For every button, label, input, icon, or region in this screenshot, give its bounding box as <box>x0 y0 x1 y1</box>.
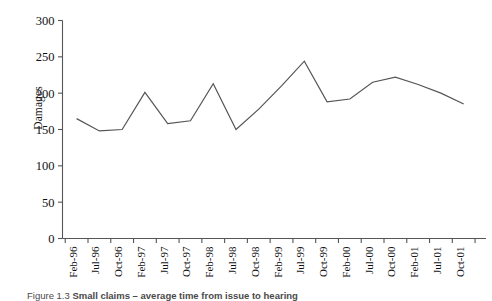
y-axis-group: 050100150200250300 <box>36 14 63 246</box>
x-tick-label: Oct-00 <box>385 246 397 277</box>
x-tick-label: Feb-99 <box>272 246 284 278</box>
y-tick-label: 250 <box>36 50 55 64</box>
x-tick-label: Jul-96 <box>89 246 101 274</box>
y-tick-label: 200 <box>36 87 55 101</box>
x-tick-label: Jul-00 <box>363 246 375 274</box>
x-axis-labels: Feb-96Jul-96Oct-96Feb-97Jul-97Oct-97Feb-… <box>67 246 466 278</box>
x-tick-label: Feb-98 <box>203 246 215 278</box>
y-tick-label: 50 <box>42 196 55 210</box>
x-tick-label: Jul-97 <box>158 246 170 274</box>
data-series-line <box>77 61 464 131</box>
x-tick-label: Jul-98 <box>226 246 238 274</box>
x-tick-label: Feb-97 <box>135 246 147 278</box>
x-tick-label: Oct-01 <box>454 247 466 278</box>
x-axis-group <box>63 239 487 244</box>
y-tick-label: 100 <box>36 159 55 173</box>
caption-number: Figure 1.3 <box>27 290 70 301</box>
x-tick-label: Jul-99 <box>294 246 306 274</box>
y-tick-label: 150 <box>36 123 55 137</box>
x-tick-label: Oct-97 <box>180 246 192 277</box>
x-tick-label: Jul-01 <box>431 247 443 275</box>
caption-text: Small claims – average time from issue t… <box>72 290 297 301</box>
x-tick-label: Feb-01 <box>408 247 420 278</box>
x-tick-label: Oct-98 <box>249 246 261 277</box>
x-tick-label: Feb-96 <box>67 246 79 278</box>
x-tick-group <box>65 239 475 244</box>
y-tick-group: 050100150200250300 <box>36 14 63 246</box>
y-tick-label: 300 <box>36 14 55 28</box>
figure-caption: Figure 1.3 Small claims – average time f… <box>27 290 467 301</box>
x-tick-label: Oct-99 <box>317 246 329 277</box>
y-tick-label: 0 <box>48 232 54 246</box>
x-tick-label: Feb-00 <box>340 246 352 278</box>
x-tick-label: Oct-96 <box>112 246 124 277</box>
